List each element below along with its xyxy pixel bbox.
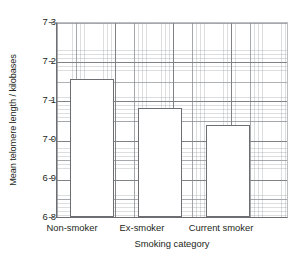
gridline-major-v-1 <box>115 23 116 217</box>
y-tick-mark-7-2 <box>50 61 54 62</box>
y-tick-mark-6-9 <box>50 178 54 179</box>
x-tick-label-ex-smoker: Ex-smoker <box>113 222 171 233</box>
bar-ex-smoker <box>138 108 182 217</box>
bar-current-smoker <box>206 125 250 217</box>
bar-non-smoker <box>70 79 114 217</box>
bar-chart-figure: Mean telomere length / kilobases 7·3 7·2… <box>0 0 308 270</box>
x-tick-label-non-smoker: Non-smoker <box>41 222 103 233</box>
y-tick-mark-7-0 <box>50 139 54 140</box>
y-tick-mark-6-8 <box>50 217 54 218</box>
x-tick-label-current-smoker: Current smoker <box>180 222 262 233</box>
y-tick-mark-7-3 <box>50 22 54 23</box>
y-tick-mark-7-1 <box>50 100 54 101</box>
x-axis-title: Smoking category <box>56 238 288 249</box>
plot-area <box>56 22 288 218</box>
gridline-major-7-2 <box>57 62 287 63</box>
